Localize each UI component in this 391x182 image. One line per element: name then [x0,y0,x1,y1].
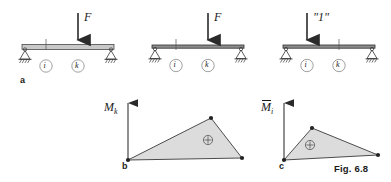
panel-a-beam [19,13,118,72]
panel-b-beam [149,13,248,72]
panel-label-b: b [122,162,128,171]
moment-subscript-b: k [114,107,118,116]
support-left-pin [149,47,162,62]
figure-canvas [0,0,391,182]
node-label-k-a: k [75,62,79,70]
support-right-pin [366,47,379,62]
beam-member [283,45,375,48]
support-right-pin [235,47,248,62]
panel-c-moment-diagram [282,103,380,162]
support-left-pin [280,47,293,62]
beam-member [152,45,244,48]
node-marker-i [170,59,182,71]
node-marker-i [40,60,52,72]
node-label-k-c: k [336,61,340,69]
support-left-pin [19,48,32,63]
node-label-k-b: k [205,61,209,69]
moment-area-c [284,128,378,160]
sign-symbol-plus-c [305,140,314,149]
beam-member [22,45,114,50]
node-label-i-b: i [174,61,176,69]
figure-caption: Fig. 6.8 [334,164,368,174]
support-right-pin [105,48,118,63]
node-label-i-c: i [305,61,307,69]
moment-area-b [128,118,242,160]
load-label-unit-c: "1" [313,11,329,23]
moment-subscript-c: i [271,107,273,116]
sign-symbol-plus-b [203,135,212,144]
load-label-F-a: F [84,11,91,23]
node-label-i-a: i [44,62,46,70]
moment-symbol-c: M [261,100,271,114]
panel-b-moment-diagram [126,103,244,162]
panel-label-c: c [279,162,284,171]
node-marker-i [301,59,313,71]
moment-axis-label-b: Mk [104,101,118,116]
overbar [262,100,271,101]
moment-axis-label-c: M i [261,101,273,116]
panel-label-a: a [20,76,25,85]
moment-symbol-b: M [104,100,114,114]
load-label-F-b: F [214,11,221,23]
figure-6-8: F i k a F i k "1" i k Mk b M i c Fig. 6.… [0,0,391,182]
